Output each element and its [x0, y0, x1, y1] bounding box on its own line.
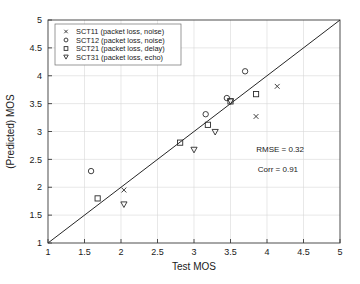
y-tick-label: 5: [37, 15, 42, 25]
circle-marker: [224, 95, 229, 100]
y-axis-title: (Predicted) MOS: [5, 94, 16, 169]
legend: SCT11 (packet loss, noise)SCT12 (packet …: [55, 24, 181, 65]
y-tick-label: 3: [37, 127, 42, 137]
x-tick-label: 1: [45, 247, 50, 257]
y-tick-label: 1: [37, 238, 42, 248]
data-point-0-1: [254, 114, 259, 119]
data-point-0-2: [275, 84, 280, 89]
series-0: [122, 84, 280, 192]
x-tick-label: 5: [337, 247, 342, 257]
circle-marker: [242, 69, 247, 74]
x-tick-label: 2.5: [151, 247, 164, 257]
circle-marker: [203, 112, 208, 117]
x-tick-label: 3: [191, 247, 196, 257]
x-tick-label: 3.5: [224, 247, 237, 257]
y-tick-label: 2: [37, 182, 42, 192]
square-marker: [95, 196, 100, 201]
data-point-2-2: [205, 122, 210, 127]
y-tick-label: 3.5: [29, 99, 42, 109]
x-tick-label: 1.5: [78, 247, 91, 257]
x-axis-title: Test MOS: [172, 261, 216, 272]
data-point-2-0: [95, 196, 100, 201]
triangle-marker: [121, 202, 127, 208]
annotation-rmse: RMSE = 0.32: [256, 145, 304, 154]
annotation-corr: Corr = 0.91: [258, 165, 299, 174]
data-point-3-2: [212, 129, 218, 135]
x-tick-label: 4: [264, 247, 269, 257]
data-point-1-3: [242, 69, 247, 74]
data-point-1-0: [88, 168, 93, 173]
y-tick-label: 1.5: [29, 210, 42, 220]
data-point-1-1: [203, 112, 208, 117]
legend-label: SCT31 (packet loss, echo): [76, 53, 163, 62]
series-2: [95, 92, 259, 201]
circle-marker: [88, 168, 93, 173]
triangle-marker: [212, 129, 218, 135]
data-point-2-4: [253, 92, 258, 97]
chart-figure: 11.522.533.544.5511.522.533.544.55Test M…: [0, 0, 360, 284]
x-tick-label: 2: [118, 247, 123, 257]
y-tick-label: 2.5: [29, 155, 42, 165]
data-point-3-0: [121, 202, 127, 208]
series-1: [88, 69, 247, 174]
series-3: [121, 99, 234, 208]
data-point-1-2: [224, 95, 229, 100]
data-point-0-0: [122, 188, 127, 193]
y-tick-label: 4: [37, 71, 42, 81]
x-tick-label: 4.5: [297, 247, 310, 257]
square-marker: [253, 92, 258, 97]
y-tick-label: 4.5: [29, 43, 42, 53]
scatter-plot: 11.522.533.544.5511.522.533.544.55Test M…: [0, 0, 360, 284]
square-marker: [205, 122, 210, 127]
